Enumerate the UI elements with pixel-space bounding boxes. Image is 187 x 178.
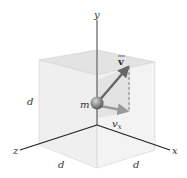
mass-label: m (80, 99, 89, 110)
side-bottom-right-label: d (133, 159, 139, 170)
z-axis-label: z (12, 145, 19, 156)
side-left-label: d (27, 96, 33, 107)
cube-left-face (39, 60, 97, 168)
y-axis-label: y (93, 9, 100, 20)
side-bottom-left-label: d (58, 159, 64, 170)
x-axis-label: x (172, 145, 178, 156)
particle-sphere (91, 97, 104, 110)
velocity-label: v (117, 56, 125, 67)
cube-diagram: y x z m v vx d d d (0, 0, 187, 178)
